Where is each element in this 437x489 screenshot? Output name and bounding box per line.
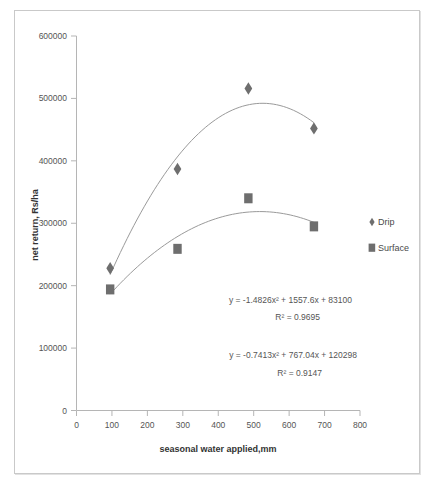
data-point-drip bbox=[245, 82, 253, 94]
equation-drip-line1: y = -1.4826x² + 1557.6x + 83100 bbox=[229, 295, 352, 305]
equation-surface-r2: R² = 0.9147 bbox=[277, 368, 322, 378]
x-axis-title: seasonal water applied,mm bbox=[159, 444, 276, 454]
legend-marker-square bbox=[369, 244, 376, 252]
data-point-surface bbox=[310, 221, 318, 231]
y-tick-label: 400000 bbox=[39, 156, 68, 166]
x-axis-tick-labels: 0100200300400500600700800 bbox=[74, 420, 367, 430]
y-tick-label: 300000 bbox=[39, 218, 68, 228]
trendline-surface bbox=[110, 212, 314, 295]
data-point-drip bbox=[174, 163, 182, 175]
x-tick-label: 0 bbox=[74, 420, 79, 430]
data-series-surface bbox=[106, 193, 318, 294]
data-point-surface bbox=[106, 284, 114, 294]
y-axis-ticks bbox=[71, 36, 77, 411]
chart-legend: DripSurface bbox=[369, 217, 409, 253]
y-tick-label: 100000 bbox=[39, 343, 68, 353]
equation-surface-line1: y = -0.7413x² + 767.04x + 120298 bbox=[229, 350, 357, 360]
y-tick-label: 600000 bbox=[39, 31, 68, 41]
trendline-drip bbox=[110, 103, 314, 274]
x-tick-label: 300 bbox=[176, 420, 190, 430]
x-tick-label: 500 bbox=[247, 420, 261, 430]
x-tick-label: 400 bbox=[211, 420, 225, 430]
scatter-chart: 0100000200000300000400000500000600000 01… bbox=[0, 0, 437, 489]
y-tick-label: 200000 bbox=[39, 281, 68, 291]
y-tick-label: 500000 bbox=[39, 93, 68, 103]
data-point-surface bbox=[173, 244, 181, 254]
x-tick-label: 100 bbox=[105, 420, 119, 430]
data-series-drip bbox=[106, 82, 317, 274]
x-axis-ticks bbox=[77, 411, 361, 417]
equation-drip-r2: R² = 0.9695 bbox=[275, 312, 320, 322]
y-axis-tick-labels: 0100000200000300000400000500000600000 bbox=[39, 31, 68, 416]
y-axis-title: net return, Rs/ha bbox=[30, 188, 40, 261]
x-tick-label: 800 bbox=[353, 420, 367, 430]
x-tick-label: 200 bbox=[140, 420, 154, 430]
data-point-drip bbox=[106, 262, 114, 274]
x-tick-label: 600 bbox=[282, 420, 296, 430]
x-tick-label: 700 bbox=[317, 420, 331, 430]
legend-marker-diamond bbox=[369, 218, 374, 226]
legend-label-drip: Drip bbox=[378, 217, 395, 227]
data-point-surface bbox=[244, 193, 252, 203]
y-tick-label: 0 bbox=[62, 406, 67, 416]
legend-label-surface: Surface bbox=[378, 243, 409, 253]
data-point-drip bbox=[310, 122, 318, 134]
